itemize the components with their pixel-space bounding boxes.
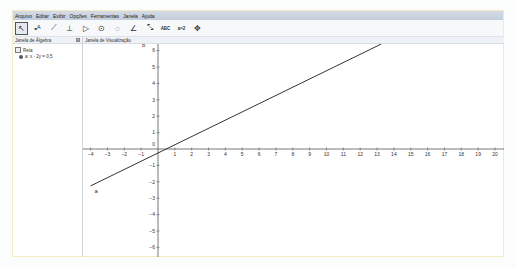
algebra-view-title: Janela de Álgebra — [15, 38, 51, 43]
circle-icon: ⊙ — [98, 24, 105, 33]
line-icon: ⟋ — [51, 23, 57, 33]
angle-tool-button[interactable]: ∠ — [127, 22, 140, 35]
move-tool-button[interactable]: ↖ — [15, 22, 28, 35]
axis-label-b: b — [142, 44, 146, 48]
x-tick-label: −1 — [138, 151, 144, 157]
angle-icon: ∠ — [130, 24, 137, 33]
menu-ferramentas[interactable]: Ferramentas — [91, 13, 119, 19]
algebra-view-header: Janela de Álgebra × — [13, 37, 82, 44]
x-tick-label: 5 — [241, 151, 244, 157]
algebra-category[interactable]: Reta — [15, 47, 82, 53]
menu-editar[interactable]: Editar — [36, 13, 49, 19]
graphics-view-header: Janela de Visualização — [83, 37, 504, 44]
menu-arquivo[interactable]: Arquivo — [15, 13, 32, 19]
x-tick-label: −4 — [88, 151, 94, 157]
x-tick-label: −2 — [121, 151, 127, 157]
x-tick-label: 12 — [357, 151, 363, 157]
move-view-icon: ✥ — [194, 24, 201, 33]
algebra-view: Janela de Álgebra × Reta a: x - 2y = 0,5 — [13, 37, 83, 257]
x-tick-label: 8 — [291, 151, 294, 157]
y-tick-label: −5 — [149, 228, 155, 234]
y-tick-label: 4 — [152, 80, 155, 86]
x-tick-label: −3 — [105, 151, 111, 157]
x-tick-label: 4 — [224, 151, 227, 157]
move-view-tool-button[interactable]: ✥ — [191, 22, 204, 35]
origin-label: 0 — [152, 141, 155, 147]
x-tick-label: 20 — [492, 151, 498, 157]
menu-opcoes[interactable]: Opções — [70, 13, 87, 19]
graphics-view[interactable]: Janela de Visualização −4−3−2−1123456789… — [83, 37, 504, 257]
reflect-tool-button[interactable]: ⤡ — [143, 22, 156, 35]
point-icon: •ᴬ — [34, 24, 40, 33]
menu-exibir[interactable]: Exibir — [53, 13, 66, 19]
polygon-tool-button[interactable]: ▷ — [79, 22, 92, 35]
graphics-canvas[interactable]: −4−3−2−11234567891011121314151617181920−… — [83, 44, 504, 257]
close-icon[interactable]: × — [76, 38, 80, 42]
collapse-toggle-icon[interactable] — [15, 47, 21, 53]
y-tick-label: 1 — [152, 129, 155, 135]
algebra-item[interactable]: a: x - 2y = 0,5 — [19, 54, 82, 59]
graphics-view-title: Janela de Visualização — [85, 38, 131, 43]
y-tick-label: 3 — [152, 97, 155, 103]
y-tick-label: −4 — [149, 211, 155, 217]
x-tick-label: 16 — [425, 151, 431, 157]
y-tick-label: 6 — [152, 47, 155, 53]
point-tool-button[interactable]: •ᴬ — [31, 22, 44, 35]
visibility-toggle-icon[interactable] — [19, 55, 23, 59]
circle-tool-button[interactable]: ⊙ — [95, 22, 108, 35]
toolbar: ↖ •ᴬ ⟋ ⊥ ▷ ⊙ ◌ ∠ ⤡ ABC a=2 ✥ — [13, 20, 503, 37]
menu-ajuda[interactable]: Ajuda — [142, 13, 155, 19]
y-tick-label: −1 — [149, 162, 155, 168]
x-tick-label: 7 — [275, 151, 278, 157]
conic-icon: ◌ — [115, 24, 120, 33]
algebra-item-label: a: x - 2y = 0,5 — [25, 54, 52, 59]
polygon-icon: ▷ — [83, 24, 89, 33]
x-tick-label: 3 — [207, 151, 210, 157]
menu-bar: Arquivo Editar Exibir Opções Ferramentas… — [13, 11, 503, 20]
algebra-category-label: Reta — [23, 48, 33, 53]
reflect-icon: ⤡ — [147, 23, 153, 33]
x-tick-label: 6 — [258, 151, 261, 157]
x-tick-label: 18 — [459, 151, 465, 157]
x-tick-label: 13 — [374, 151, 380, 157]
line-tool-button[interactable]: ⟋ — [47, 22, 60, 35]
slider-icon: a=2 — [178, 26, 186, 31]
conic-tool-button[interactable]: ◌ — [111, 22, 124, 35]
line-a — [91, 44, 382, 186]
y-tick-label: 2 — [152, 113, 155, 119]
perpendicular-tool-button[interactable]: ⊥ — [63, 22, 76, 35]
x-tick-label: 15 — [408, 151, 414, 157]
menu-janela[interactable]: Janela — [123, 13, 138, 19]
x-tick-label: 1 — [173, 151, 176, 157]
line-a-label: a — [95, 188, 99, 194]
y-tick-label: −6 — [149, 244, 155, 250]
x-tick-label: 10 — [324, 151, 330, 157]
slider-tool-button[interactable]: a=2 — [175, 22, 188, 35]
x-tick-label: 11 — [341, 151, 346, 157]
text-tool-button[interactable]: ABC — [159, 22, 172, 35]
x-tick-label: 14 — [391, 151, 397, 157]
x-tick-label: 19 — [475, 151, 481, 157]
y-tick-label: 5 — [152, 64, 155, 70]
text-icon: ABC — [161, 26, 171, 31]
y-tick-label: −3 — [149, 195, 155, 201]
x-tick-label: 9 — [308, 151, 311, 157]
perpendicular-icon: ⊥ — [66, 24, 73, 33]
x-tick-label: 2 — [190, 151, 193, 157]
y-tick-label: −2 — [149, 179, 155, 185]
geogebra-window: Arquivo Editar Exibir Opções Ferramentas… — [12, 10, 504, 257]
cursor-arrow-icon: ↖ — [18, 24, 25, 33]
x-tick-label: 17 — [442, 151, 448, 157]
